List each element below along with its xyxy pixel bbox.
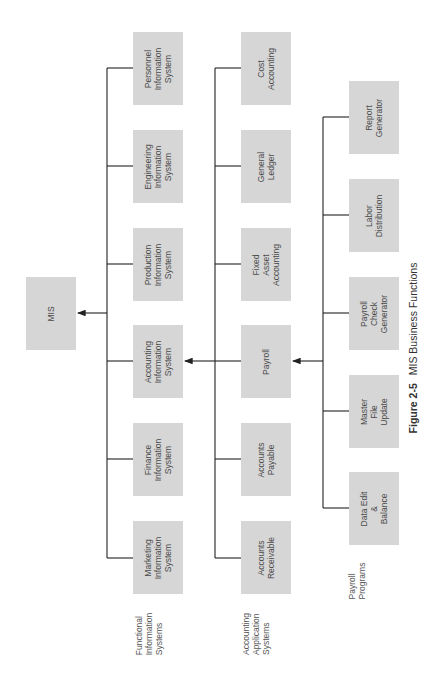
group-label-text: Payroll Programs bbox=[347, 563, 367, 600]
node-label: Cost Accounting bbox=[256, 47, 276, 89]
node-label: Fixed Asset Accounting bbox=[251, 243, 281, 285]
node-label: Accounting Information System bbox=[143, 340, 173, 383]
accounting-application-systems-label: Accounting Application Systems bbox=[238, 604, 274, 664]
finance-information-system-node: Finance Information System bbox=[133, 423, 183, 496]
node-label: Data Edit & Balance bbox=[359, 491, 389, 526]
mis-label: MIS bbox=[46, 306, 56, 321]
node-label: Finance Information System bbox=[143, 438, 173, 481]
node-label: Master File Update bbox=[359, 398, 389, 425]
master-file-update-node: Master File Update bbox=[349, 375, 399, 448]
cost-accounting-node: Cost Accounting bbox=[241, 32, 291, 105]
report-generator-node: Report Generator bbox=[349, 81, 399, 154]
node-label: Production Information System bbox=[143, 243, 173, 286]
node-label: Engineering Information System bbox=[143, 144, 173, 189]
personnel-information-system-node: Personnel Information System bbox=[133, 32, 183, 105]
node-label: Labor Distribution bbox=[364, 194, 384, 237]
node-label: Payroll bbox=[261, 349, 271, 375]
node-label: Payroll Check Generator bbox=[359, 294, 389, 332]
production-information-system-node: Production Information System bbox=[133, 228, 183, 301]
figure-number: Figure 2-5 bbox=[407, 383, 419, 433]
mis-node: MIS bbox=[26, 277, 76, 350]
data-edit-balance-node: Data Edit & Balance bbox=[349, 472, 399, 545]
accounts-receivable-node: Accounts Receivable bbox=[241, 521, 291, 594]
figure-title: MIS Business Functions bbox=[407, 262, 419, 375]
payroll-check-generator-node: Payroll Check Generator bbox=[349, 277, 399, 350]
node-label: General Ledger bbox=[256, 151, 276, 181]
figure-caption: Figure 2-5MIS Business Functions bbox=[403, 250, 423, 445]
accounting-information-system-node: Accounting Information System bbox=[133, 325, 183, 398]
group-label-text: Accounting Application Systems bbox=[241, 613, 271, 655]
node-label: Marketing Information System bbox=[143, 536, 173, 579]
group-label-text: Functional Information Systems bbox=[134, 613, 164, 656]
payroll-node: Payroll bbox=[241, 325, 291, 398]
accounts-payable-node: Accounts Payable bbox=[241, 423, 291, 496]
node-label: Report Generator bbox=[364, 98, 384, 136]
marketing-information-system-node: Marketing Information System bbox=[133, 521, 183, 594]
engineering-information-system-node: Engineering Information System bbox=[133, 130, 183, 203]
general-ledger-node: General Ledger bbox=[241, 130, 291, 203]
fixed-asset-accounting-node: Fixed Asset Accounting bbox=[241, 228, 291, 301]
node-label: Accounts Receivable bbox=[256, 536, 276, 578]
node-label: Accounts Payable bbox=[256, 442, 276, 477]
node-label: Personnel Information System bbox=[143, 47, 173, 90]
payroll-programs-label: Payroll Programs bbox=[341, 556, 373, 606]
functional-information-systems-label: Functional Information Systems bbox=[131, 604, 167, 664]
labor-distribution-node: Labor Distribution bbox=[349, 179, 399, 252]
